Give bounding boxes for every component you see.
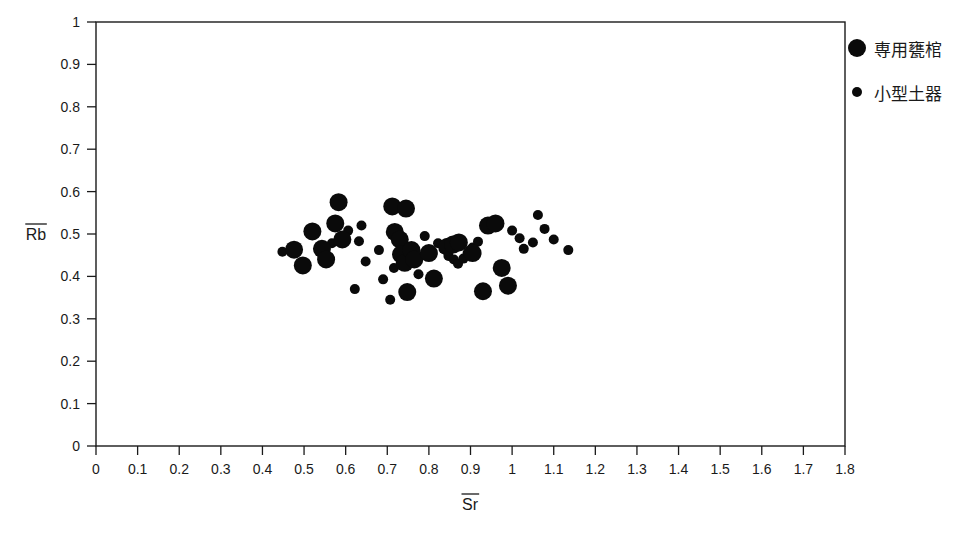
data-point [356,221,366,231]
legend-label-jar-coffin: 専用甕棺 [874,40,942,60]
x-tick-label: 1.2 [586,461,606,477]
data-point [549,235,559,245]
data-point [385,295,395,305]
data-point [515,233,525,243]
x-tick-label: 0.8 [419,461,439,477]
x-tick-label: 0.6 [336,461,356,477]
x-tick-label: 1.6 [752,461,772,477]
y-tick-label: 1 [72,14,80,30]
data-point [540,224,550,234]
data-point [374,245,384,255]
x-tick-label: 0.1 [128,461,148,477]
data-point [413,269,423,279]
y-tick-label: 0.8 [61,99,81,115]
x-tick-label: 0.4 [253,461,273,477]
data-point [464,244,482,262]
x-tick-label: 1.7 [794,461,814,477]
x-tick-label: 0.7 [378,461,398,477]
data-point [493,259,511,277]
legend-label-small-pottery: 小型土器 [874,85,942,104]
y-axis-title: Rb [26,226,47,243]
y-tick-label: 0.5 [61,226,81,242]
x-tick-label: 0.3 [211,461,231,477]
legend-small-circle-icon [852,87,862,97]
x-tick-label: 0.9 [461,461,481,477]
data-point [378,274,388,284]
scatter-plot-figure: 00.10.20.30.40.50.60.70.80.911.11.21.31.… [0,0,969,541]
x-axis-title: Sr [462,496,479,513]
data-point [333,231,351,249]
data-point [354,236,364,246]
x-tick-label: 1.1 [544,461,564,477]
data-point [303,222,321,240]
x-axis-title-group: Sr [462,494,480,513]
x-tick-label: 0.2 [169,461,189,477]
data-point [294,256,312,274]
data-point [285,241,303,259]
y-tick-label: 0.1 [61,396,81,412]
x-tick-label: 1.5 [710,461,730,477]
data-point [420,231,430,241]
chart-canvas: 00.10.20.30.40.50.60.70.80.911.11.21.31.… [0,0,969,541]
data-point [420,244,438,262]
x-tick-label: 1.8 [835,461,855,477]
data-point [519,244,529,254]
y-tick-label: 0.9 [61,56,81,72]
x-tick-label: 0 [92,461,100,477]
data-point [425,270,443,288]
data-point [499,277,517,295]
legend-large-circle-icon [848,39,866,57]
data-point [397,200,415,218]
data-point [317,250,335,268]
y-tick-label: 0.6 [61,184,81,200]
y-tick-label: 0.7 [61,141,81,157]
y-tick-label: 0.2 [61,353,81,369]
data-point [474,282,492,300]
y-tick-label: 0 [72,438,80,454]
y-tick-label: 0.3 [61,311,81,327]
x-tick-label: 1.3 [627,461,647,477]
data-point [533,210,543,220]
x-tick-label: 0.5 [294,461,314,477]
data-point [528,237,538,247]
data-point [563,245,573,255]
y-tick-label: 0.4 [61,268,81,284]
data-point [350,284,360,294]
figure-background [0,0,969,541]
y-axis-title-group: Rb [25,224,47,243]
data-point [330,193,348,211]
data-point [326,214,344,232]
data-point [361,257,371,267]
x-tick-label: 1 [508,461,516,477]
data-point [486,214,504,232]
x-tick-label: 1.4 [669,461,689,477]
data-point [507,226,517,236]
data-point [398,283,416,301]
